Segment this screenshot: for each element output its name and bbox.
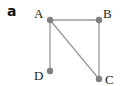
edge-a-c [50,20,99,79]
node-label-b: B [103,6,112,21]
node-label-c: C [105,72,114,86]
node-b [96,17,102,23]
node-label-d: D [34,68,43,83]
graph-diagram: A B C D [0,0,120,86]
node-d [47,68,53,74]
node-c [96,76,102,82]
edges [50,20,99,79]
node-label-a: A [34,6,44,21]
node-a [47,17,53,23]
node-labels: A B C D [34,6,114,86]
